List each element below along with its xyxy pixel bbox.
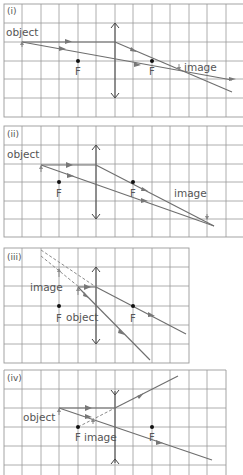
focal-label: F — [75, 432, 81, 443]
image-label: image — [174, 187, 207, 199]
ray-arrow-icon — [65, 39, 72, 44]
panel-ii: F F (ii) object image — [4, 126, 243, 237]
focal-point-dot — [76, 425, 80, 429]
ray-arrow-icon — [85, 405, 92, 411]
refracted-ray — [96, 287, 186, 334]
focal-label: F — [130, 188, 136, 199]
ray-arrow-icon — [67, 173, 74, 178]
converging-lens — [111, 23, 119, 98]
central-ray — [78, 287, 150, 360]
panel-iv: F F (iv) object image — [4, 370, 226, 475]
focal-label: F — [56, 313, 62, 324]
ray-arrow-icon — [118, 329, 125, 335]
focal-point-dot — [150, 59, 154, 63]
focal-label: F — [149, 66, 155, 77]
focal-label: F — [149, 432, 155, 443]
virtual-ray — [78, 408, 115, 427]
object-label: object — [66, 311, 98, 323]
diverged-ray — [115, 376, 178, 408]
ray-arrow-icon — [141, 187, 148, 191]
panel-label: (iv) — [7, 373, 22, 383]
image-label: image — [184, 61, 217, 73]
grid — [4, 126, 243, 237]
ray-arrow-icon — [130, 47, 137, 52]
focal-point-dot — [131, 180, 135, 184]
panel-label: (ii) — [7, 129, 19, 139]
object-label: object — [7, 148, 39, 160]
focal-label: F — [130, 313, 136, 324]
focal-point-dot — [57, 304, 61, 308]
panel-label: (i) — [7, 6, 17, 16]
image-label: image — [30, 281, 63, 293]
focal-point-dot — [131, 304, 135, 308]
ray-arrow-icon — [229, 77, 236, 81]
ray-arrow-icon — [83, 292, 89, 298]
focal-point-dot — [150, 425, 154, 429]
panel-label: (iii) — [7, 252, 22, 262]
panel-iii: F F (iii) image object — [4, 248, 189, 363]
ray-diagram-figure: F F (i) object image — [0, 0, 243, 475]
object-label: object — [23, 411, 55, 423]
ray-arrow-icon — [66, 162, 73, 168]
panel-i: F F (i) object image — [4, 4, 243, 117]
ray-arrow-icon — [148, 312, 155, 317]
focal-label: F — [56, 188, 62, 199]
image-label: image — [84, 431, 117, 443]
focal-label: F — [75, 66, 81, 77]
ray-arrow-icon — [84, 284, 91, 290]
ray-arrow-icon — [137, 393, 144, 399]
focal-point-dot — [57, 180, 61, 184]
focal-point-dot — [76, 59, 80, 63]
object-label: object — [6, 26, 38, 38]
